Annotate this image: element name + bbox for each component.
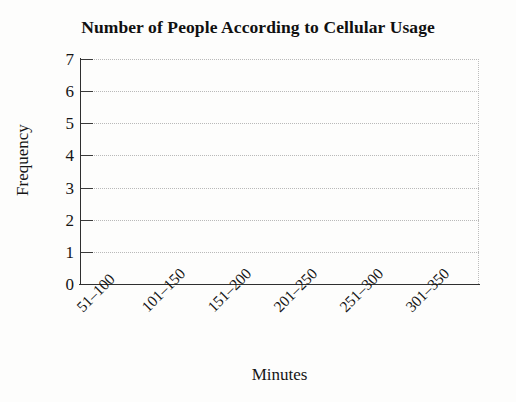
y-tick-label-2: 2 xyxy=(44,212,74,229)
y-tick-label-3: 3 xyxy=(44,180,74,197)
x-axis-tick-labels: 51–100 101–150 151–200 201–250 251–300 3… xyxy=(0,284,516,364)
x-axis-title: Minutes xyxy=(80,365,479,385)
y-tick-label-7: 7 xyxy=(44,51,74,68)
bars-layer xyxy=(80,59,479,284)
y-axis-title: Frequency xyxy=(13,75,33,245)
y-axis-line xyxy=(80,58,81,285)
y-tick-label-1: 1 xyxy=(44,244,74,261)
chart-title: Number of People According to Cellular U… xyxy=(0,17,516,38)
chart-figure: Number of People According to Cellular U… xyxy=(0,0,516,402)
plot-area xyxy=(80,59,479,284)
y-tick-label-6: 6 xyxy=(44,83,74,100)
y-tick-label-4: 4 xyxy=(44,147,74,164)
y-tick-label-5: 5 xyxy=(44,115,74,132)
